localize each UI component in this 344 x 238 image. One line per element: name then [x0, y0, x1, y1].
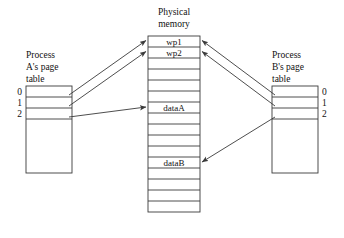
- memory-cell-dataA: dataA: [163, 103, 185, 113]
- diagram-canvas: Physical memory wp1 wp2 dataA dataB: [0, 0, 344, 238]
- process-b-caption-line3: table: [272, 74, 290, 84]
- physical-memory-caption-line1: Physical: [158, 7, 191, 17]
- physical-memory-caption-line2: memory: [158, 19, 190, 29]
- mapping-arrow-b2-dataB: [202, 117, 275, 162]
- process-b-index-1: 1: [322, 98, 327, 108]
- memory-mapping-diagram: Physical memory wp1 wp2 dataA dataB: [0, 0, 344, 238]
- process-b-index-0: 0: [322, 87, 327, 97]
- process-a-index-2: 2: [17, 109, 22, 119]
- process-b-caption-line2: B's page: [272, 62, 304, 72]
- mapping-arrow-b1-wp2: [202, 52, 275, 107]
- memory-cell-dataB: dataB: [164, 158, 185, 168]
- memory-cell-wp2: wp2: [166, 48, 182, 58]
- process-b-index-2: 2: [322, 109, 327, 119]
- process-b-page-table: 0 1 2: [272, 86, 327, 173]
- process-a-caption-line2: A's page: [26, 62, 59, 72]
- process-a-index-0: 0: [17, 87, 22, 97]
- mapping-arrow-a0-wp1: [69, 41, 146, 96]
- process-a-caption-line1: Process: [26, 50, 55, 60]
- process-a-index-1: 1: [17, 98, 22, 108]
- physical-memory-column: wp1 wp2 dataA dataB: [148, 36, 200, 212]
- mapping-arrow-b0-wp1: [202, 41, 275, 96]
- process-b-table-outline: [272, 86, 318, 173]
- mapping-arrow-a1-wp2: [69, 52, 146, 107]
- memory-cell-wp1: wp1: [166, 37, 182, 47]
- mapping-arrow-a2-dataA: [69, 107, 146, 117]
- process-a-page-table: 0 1 2: [17, 86, 72, 173]
- process-b-caption-line1: Process: [272, 50, 301, 60]
- process-a-caption-line3: table: [26, 74, 44, 84]
- process-a-table-outline: [26, 86, 72, 173]
